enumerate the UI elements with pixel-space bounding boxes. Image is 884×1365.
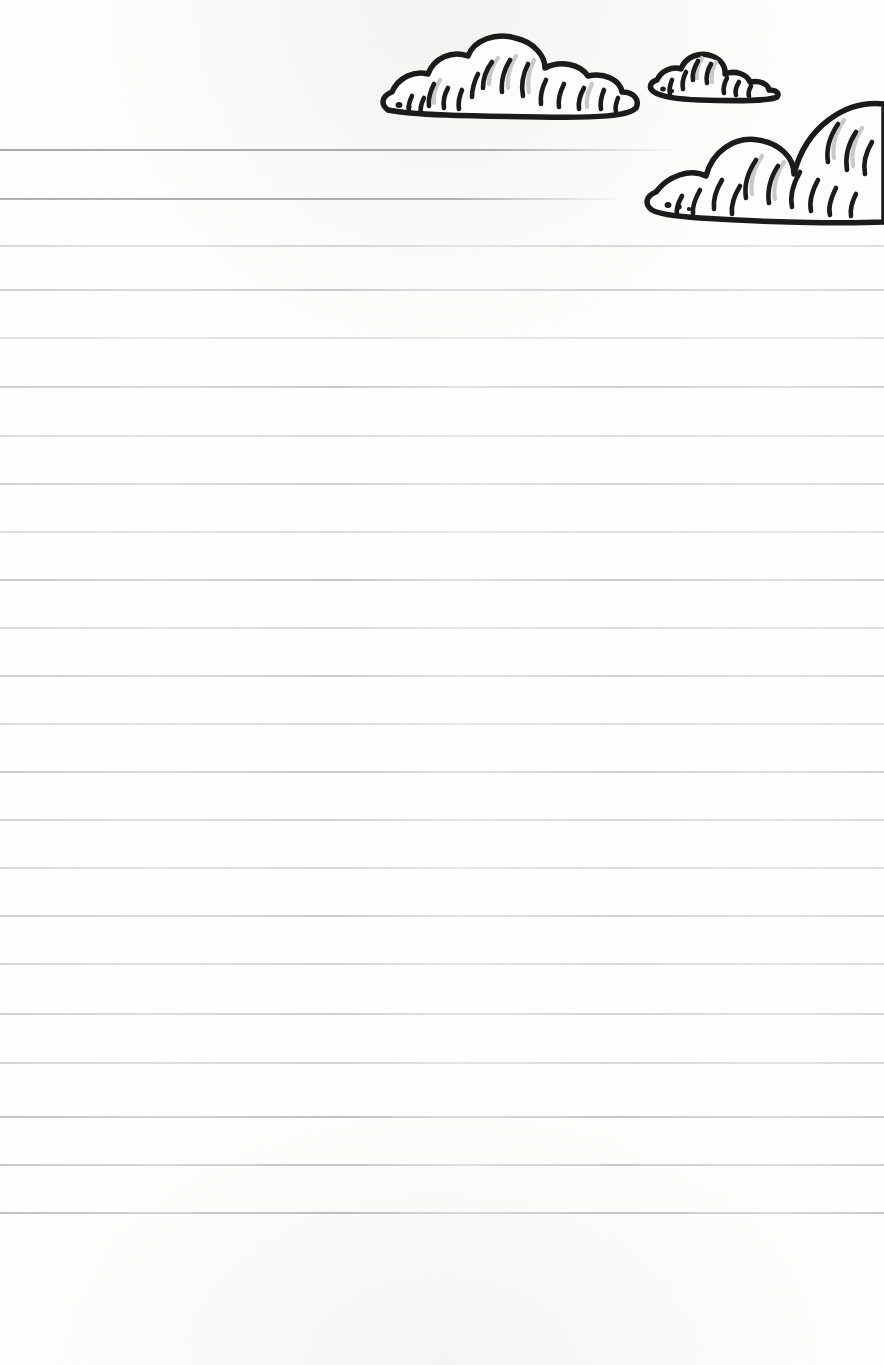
ruled-line	[0, 483, 884, 485]
ruled-line	[0, 149, 680, 151]
ruled-line	[0, 963, 884, 965]
ruled-line	[0, 289, 884, 291]
ruled-lines	[0, 0, 884, 1365]
ruled-line	[0, 579, 884, 581]
notepaper-page	[0, 0, 884, 1365]
ruled-line	[0, 1212, 884, 1214]
ruled-line	[0, 723, 884, 725]
ruled-line	[0, 198, 624, 200]
ruled-line	[0, 1164, 884, 1166]
ruled-line	[0, 1062, 884, 1064]
ruled-line	[0, 1013, 884, 1015]
ruled-line	[0, 675, 884, 677]
ruled-line	[0, 531, 884, 533]
ruled-line	[0, 627, 884, 629]
ruled-line	[0, 337, 884, 339]
ruled-line	[0, 915, 884, 917]
ruled-line	[0, 867, 884, 869]
ruled-line	[0, 435, 884, 437]
ruled-line	[0, 771, 884, 773]
ruled-line	[0, 819, 884, 821]
ruled-line	[0, 1116, 884, 1118]
ruled-line	[0, 245, 884, 247]
ruled-line	[0, 386, 884, 388]
